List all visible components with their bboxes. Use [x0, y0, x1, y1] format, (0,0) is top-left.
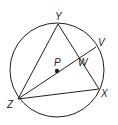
label-v: V — [98, 37, 106, 48]
label-w: W — [78, 57, 89, 68]
label-z: Z — [6, 99, 14, 110]
segment-zy — [18, 24, 58, 99]
label-p: P — [54, 57, 61, 68]
center-point-p — [55, 69, 59, 73]
label-y: Y — [55, 11, 63, 22]
label-x: X — [100, 88, 108, 99]
circle-diagram: Y Z X V P W — [0, 0, 118, 125]
